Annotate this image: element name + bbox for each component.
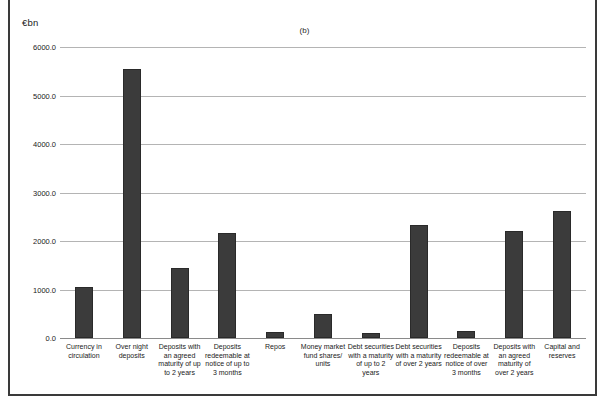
y-axis-tick-label: 2000.0 — [10, 237, 56, 246]
x-axis-category-label: Debt securities with a maturity of over … — [395, 343, 443, 369]
bar — [457, 331, 475, 338]
x-axis-category-label: Deposits with an agreed maturity of over… — [490, 343, 538, 377]
bar — [171, 268, 189, 338]
bar — [314, 314, 332, 338]
x-axis-category-label: Debt securities with a maturity of up to… — [347, 343, 395, 377]
figure-panel: €bn (b) 0.01000.02000.03000.04000.05000.… — [0, 0, 609, 400]
bar-chart-plot-area: 0.01000.02000.03000.04000.05000.06000.0C… — [0, 0, 609, 400]
y-axis-tick-label: 5000.0 — [10, 92, 56, 101]
y-axis-tick-label: 3000.0 — [10, 189, 56, 198]
y-gridline — [60, 338, 586, 339]
x-axis-category-label: Deposits redeemable at notice of up to 3… — [203, 343, 251, 377]
x-axis-category-label: Capital and reserves — [538, 343, 586, 360]
bar — [362, 333, 380, 338]
x-axis-category-label: Deposits redeemable at notice of over 3 … — [443, 343, 491, 377]
y-gridline — [60, 47, 586, 48]
y-axis-tick-label: 4000.0 — [10, 140, 56, 149]
x-axis-category-label: Money market fund shares/ units — [299, 343, 347, 369]
x-axis-category-label: Currency in circulation — [60, 343, 108, 360]
bar — [266, 332, 284, 338]
x-axis-category-label: Over night deposits — [108, 343, 156, 360]
bar — [410, 225, 428, 338]
bar — [123, 69, 141, 338]
bar — [75, 287, 93, 338]
y-axis-tick-label: 1000.0 — [10, 286, 56, 295]
bar — [553, 211, 571, 338]
x-axis-category-label: Repos — [251, 343, 299, 352]
bar — [505, 231, 523, 338]
y-axis-tick-label: 6000.0 — [10, 43, 56, 52]
y-axis-tick-label: 0.0 — [10, 334, 56, 343]
x-axis-category-label: Deposits with an agreed maturity of up t… — [156, 343, 204, 377]
bar — [218, 233, 236, 338]
